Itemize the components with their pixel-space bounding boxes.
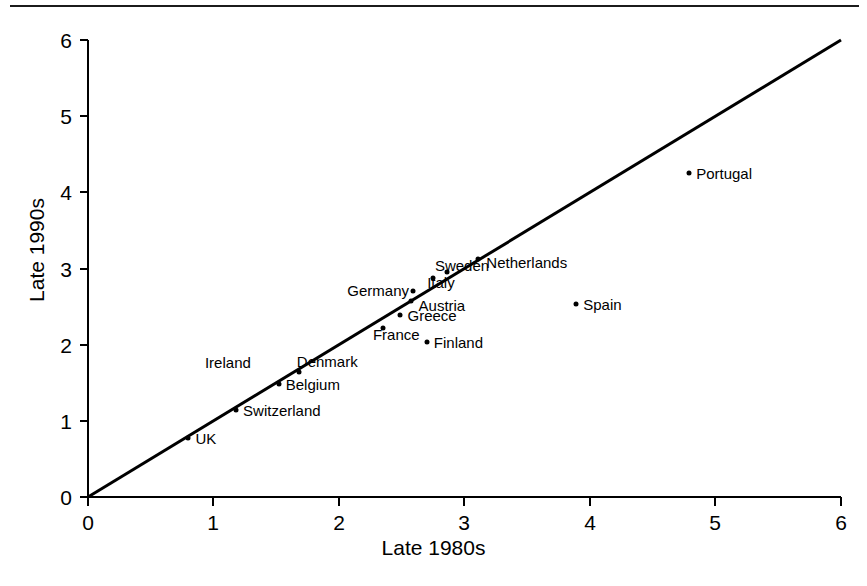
scatter-point-label: Switzerland — [243, 403, 321, 418]
scatter-point-label: Ireland — [205, 355, 251, 370]
scatter-point — [296, 370, 301, 375]
scatter-point — [411, 288, 416, 293]
x-tick-label-2: 2 — [333, 512, 345, 533]
x-tick-label-3: 3 — [458, 512, 470, 533]
scatter-point-label: Germany — [347, 282, 409, 297]
y-tick-label-4: 4 — [60, 182, 72, 203]
scatter-point-label: Portugal — [696, 165, 752, 180]
scatter-point — [398, 312, 403, 317]
y-axis-title: Late 1990s — [25, 150, 49, 350]
x-tick-label-0: 0 — [82, 512, 94, 533]
scatter-point-label: Finland — [434, 335, 483, 350]
y-tick-label-0: 0 — [60, 487, 72, 508]
scatter-point-label: Italy — [427, 274, 455, 289]
y-tick-label-5: 5 — [60, 106, 72, 127]
top-divider-rule — [10, 5, 859, 7]
scatter-point-label: France — [373, 326, 420, 341]
scatter-point — [234, 408, 239, 413]
scatter-point-label: Denmark — [297, 354, 358, 369]
scatter-point-label: Netherlands — [486, 255, 567, 270]
scatter-point — [408, 299, 413, 304]
scatter-point-label: Austria — [419, 298, 466, 313]
scatter-point-label: Sweden — [435, 257, 489, 272]
scatter-point-label: Spain — [583, 296, 621, 311]
scatter-point — [186, 436, 191, 441]
x-tick-label-1: 1 — [207, 512, 219, 533]
x-axis-title: Late 1980s — [0, 536, 867, 560]
x-tick-label-6: 6 — [835, 512, 847, 533]
y-tick-label-3: 3 — [60, 259, 72, 280]
scatter-point — [687, 170, 692, 175]
y-tick-label-6: 6 — [60, 30, 72, 51]
x-tick-label-4: 4 — [584, 512, 596, 533]
y-tick-label-1: 1 — [60, 411, 72, 432]
scatter-plot-figure: 0 1 2 3 4 5 6 0 1 2 3 4 5 6 Late 1980s L… — [0, 0, 867, 586]
scatter-point — [424, 340, 429, 345]
x-tick-label-5: 5 — [709, 512, 721, 533]
y-tick-label-2: 2 — [60, 335, 72, 356]
scatter-point — [276, 381, 281, 386]
scatter-point-label: Belgium — [286, 376, 340, 391]
scatter-point — [574, 301, 579, 306]
scatter-point-label: UK — [195, 431, 216, 446]
scatter-point — [476, 257, 481, 262]
